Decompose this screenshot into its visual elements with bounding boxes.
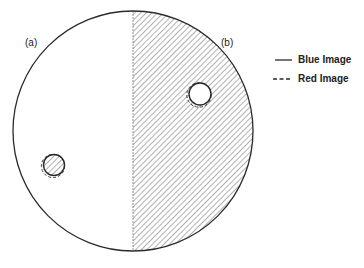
label-b: (b): [221, 37, 233, 48]
field-of-view-diagram: (a) (b) Blue Image Red Image: [0, 0, 364, 268]
spot-a: [41, 154, 64, 177]
label-a: (a): [25, 37, 37, 48]
legend: Blue Image Red Image: [273, 54, 352, 84]
legend-blue-label: Blue Image: [298, 54, 352, 65]
legend-red-label: Red Image: [298, 73, 349, 84]
